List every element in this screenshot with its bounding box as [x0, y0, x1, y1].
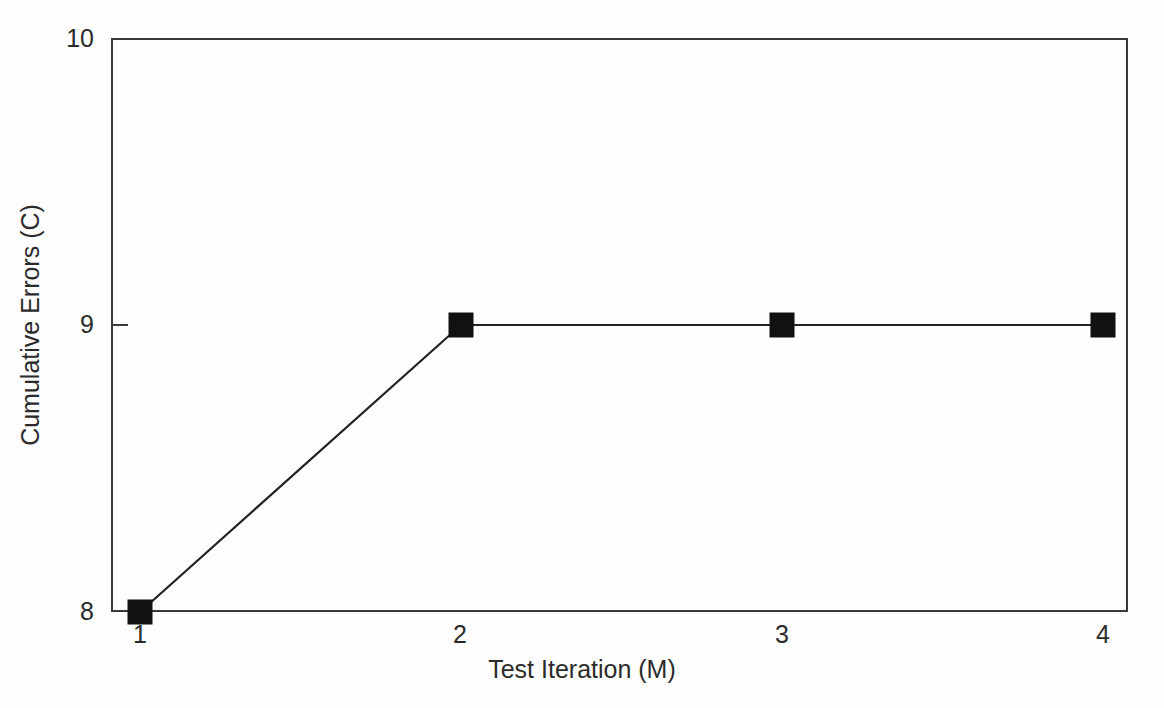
x-tick-label-4: 4 — [1096, 622, 1110, 647]
y-tick-label-8: 8 — [80, 599, 94, 624]
y-tick-mark-9 — [111, 324, 128, 326]
y-tick-label-9: 9 — [80, 312, 94, 337]
x-tick-label-2: 2 — [453, 622, 467, 647]
chart-figure: 10 9 8 1 2 3 4 Cumulative Errors (C) Tes… — [0, 0, 1164, 708]
x-tick-label-3: 3 — [775, 622, 789, 647]
x-tick-label-1: 1 — [133, 622, 147, 647]
x-axis-title: Test Iteration (M) — [0, 655, 1164, 684]
plot-area — [111, 38, 1128, 612]
y-tick-label-10: 10 — [66, 26, 94, 51]
y-axis-title: Cumulative Errors (C) — [16, 115, 45, 535]
